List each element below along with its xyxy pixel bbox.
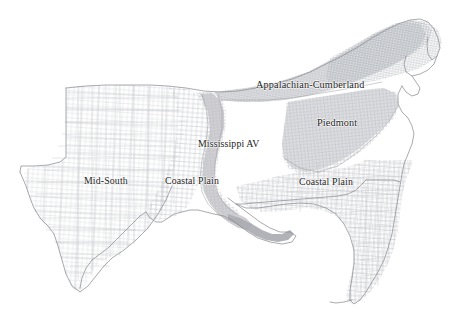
region-shade-mississippi-delta [228,214,294,242]
region-map: Appalachian-Cumberland Piedmont Mississi… [0,0,454,314]
outline-florida-keys [330,300,352,303]
map-graphic [0,0,454,314]
outline-texas-west [20,88,66,172]
